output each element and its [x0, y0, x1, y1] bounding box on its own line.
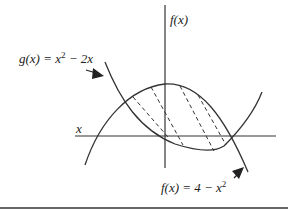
g-equation-label: g(x) = x2 − 2x [19, 50, 93, 66]
x-axis-label: x [75, 121, 82, 136]
curve-f [85, 84, 248, 172]
hatch-line [180, 86, 214, 151]
f-equation-label: f(x) = 4 − x2 [161, 179, 226, 195]
hatch-line [133, 97, 168, 137]
area-between-curves-diagram: x f(x) g(x) = x2 − 2x f(x) = 4 − x2 [0, 0, 288, 211]
region-hatching [133, 86, 226, 151]
y-axis-label: f(x) [170, 12, 188, 27]
curve-g [105, 62, 262, 150]
hatch-line [198, 95, 226, 145]
arrow-to-f [232, 167, 244, 179]
arrow-to-g [86, 68, 104, 79]
